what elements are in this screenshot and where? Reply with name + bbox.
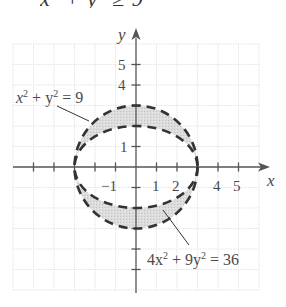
y-axis-label: y	[116, 25, 126, 44]
x-axis-label: x	[266, 171, 275, 190]
y-tick-label: 4	[118, 77, 126, 93]
inequality-graph: y x −1 1 2 4 5 5 4 1 x2 + y2 = 9 4x2 + 9…	[0, 0, 286, 307]
y-tick-label: 5	[118, 57, 126, 73]
x-tick-label: 1	[152, 178, 160, 194]
x-tick-label: 4	[213, 178, 221, 194]
svg-text:4x2 + 9y2 = 36: 4x2 + 9y2 = 36	[147, 250, 239, 269]
x-tick-label: 5	[233, 178, 241, 194]
x-tick-label: 2	[172, 178, 180, 194]
y-tick-label: 1	[120, 139, 128, 155]
shaded-solution-region	[0, 0, 286, 307]
x-tick-label: −1	[101, 178, 117, 194]
